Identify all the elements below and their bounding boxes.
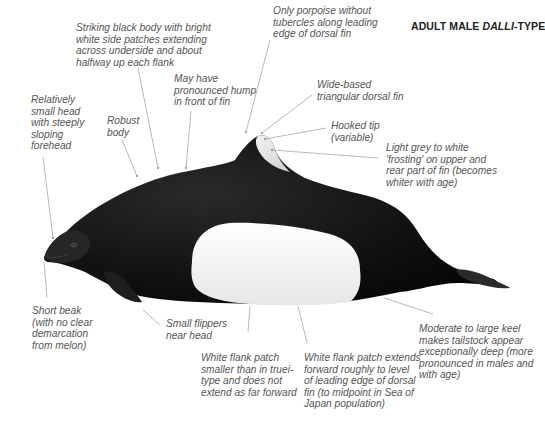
label-flank-smaller: White flank patch smaller than in truei-… xyxy=(201,352,297,398)
label-robust-body: Robust body xyxy=(107,115,139,138)
label-flank-extends: White flank patch extends forward roughl… xyxy=(304,352,421,410)
title-italic: DALLI xyxy=(482,20,513,32)
label-frosting: Light grey to white 'frosting' on upper … xyxy=(386,142,497,188)
label-flippers: Small flippers near head xyxy=(166,318,227,341)
label-tubercles: Only porpoise without tubercles along le… xyxy=(273,5,378,40)
label-body-colour: Striking black body with bright white si… xyxy=(76,22,211,68)
label-hump: May have pronounced hump in front of fin xyxy=(174,73,256,108)
label-keel: Moderate to large keel makes tailstock a… xyxy=(419,323,533,381)
label-hooked-tip: Hooked tip (variable) xyxy=(331,120,380,143)
title-suffix: -TYPE xyxy=(514,20,545,32)
label-dorsal-fin: Wide-based triangular dorsal fin xyxy=(317,79,404,102)
label-short-beak: Short beak (with no clear demarcation fr… xyxy=(32,305,93,351)
label-head: Relatively small head with steeply slopi… xyxy=(31,94,84,152)
diagram-title: ADULT MALE DALLI-TYPE xyxy=(411,20,545,32)
title-prefix: ADULT MALE xyxy=(411,20,482,32)
porpoise-eye xyxy=(71,243,77,247)
